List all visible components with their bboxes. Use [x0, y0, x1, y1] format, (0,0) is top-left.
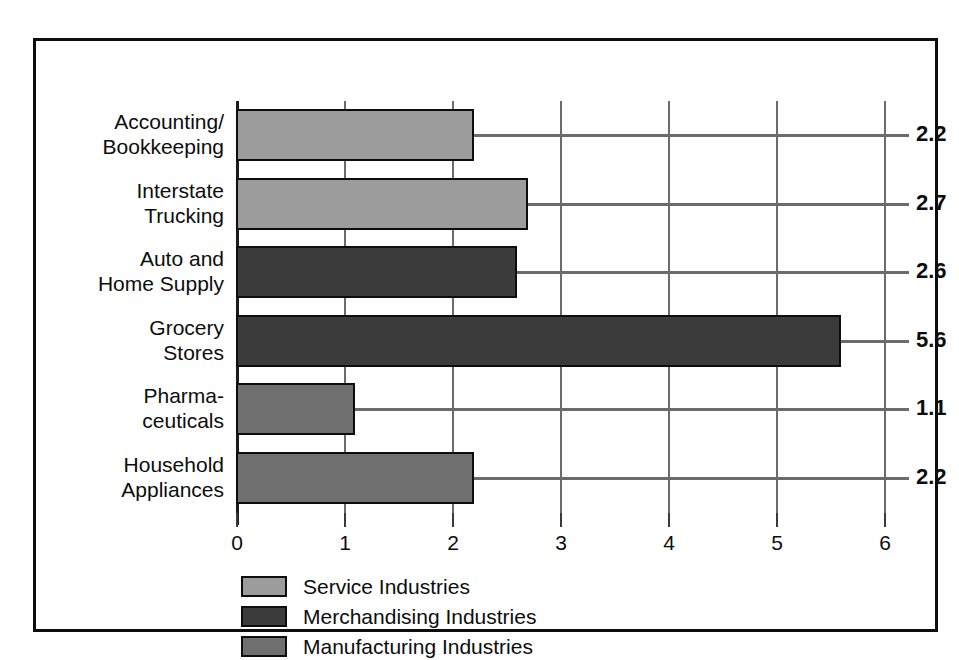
gridline-5: [776, 101, 778, 513]
bar: [236, 452, 474, 504]
tick-label-4: 4: [649, 531, 689, 555]
chart-frame: Accounting/BookkeepingInterstateTrucking…: [33, 38, 938, 632]
tick-mark-5: [776, 513, 778, 527]
legend-label: Manufacturing Industries: [303, 635, 533, 659]
value-leader-line: [528, 203, 909, 206]
category-label: Pharma-ceuticals: [44, 383, 224, 433]
gridline-6: [884, 101, 886, 513]
bar: [236, 246, 517, 298]
category-label-line: Bookkeeping: [44, 134, 224, 159]
bar-value-label: 5.6: [916, 328, 959, 352]
gridline-4: [668, 101, 670, 513]
legend-swatch-icon: [241, 636, 287, 657]
category-axis-labels: Accounting/BookkeepingInterstateTrucking…: [36, 41, 224, 635]
gridline-3: [560, 101, 562, 513]
tick-mark-3: [560, 513, 562, 527]
category-label-line: Trucking: [44, 203, 224, 228]
bar: [236, 383, 355, 435]
category-label: GroceryStores: [44, 315, 224, 365]
legend-swatch-icon: [241, 606, 287, 627]
tick-mark-2: [452, 513, 454, 527]
category-label-line: Accounting/: [44, 109, 224, 134]
tick-mark-0: [236, 513, 238, 527]
tick-label-2: 2: [433, 531, 473, 555]
bar-value-label: 2.7: [916, 191, 959, 215]
bar-value-label: 2.6: [916, 259, 959, 283]
legend: Service IndustriesMerchandising Industri…: [241, 573, 536, 660]
bar-value-label: 2.2: [916, 465, 959, 489]
category-label-line: Grocery: [44, 315, 224, 340]
category-label: HouseholdAppliances: [44, 452, 224, 502]
legend-item: Merchandising Industries: [241, 603, 536, 630]
category-label-line: Household: [44, 452, 224, 477]
bar: [236, 178, 528, 230]
tick-mark-1: [344, 513, 346, 527]
bar-value-label: 1.1: [916, 396, 959, 420]
value-leader-line: [517, 271, 909, 274]
tick-label-3: 3: [541, 531, 581, 555]
category-label-line: ceuticals: [44, 408, 224, 433]
value-leader-line: [474, 477, 909, 480]
tick-mark-4: [668, 513, 670, 527]
tick-label-1: 1: [325, 531, 365, 555]
category-label-line: Interstate: [44, 178, 224, 203]
bar: [236, 109, 474, 161]
tick-mark-6: [884, 513, 886, 527]
legend-label: Merchandising Industries: [303, 605, 536, 629]
category-label-line: Appliances: [44, 477, 224, 502]
legend-item: Service Industries: [241, 573, 536, 600]
value-leader-line: [355, 408, 909, 411]
tick-label-5: 5: [757, 531, 797, 555]
bar-chart-figure: Accounting/BookkeepingInterstateTrucking…: [0, 0, 959, 660]
legend-item: Manufacturing Industries: [241, 633, 536, 660]
tick-label-6: 6: [865, 531, 905, 555]
category-label: Accounting/Bookkeeping: [44, 109, 224, 159]
category-label-line: Pharma-: [44, 383, 224, 408]
category-label-line: Stores: [44, 340, 224, 365]
category-label-line: Auto and: [44, 246, 224, 271]
category-label: InterstateTrucking: [44, 178, 224, 228]
tick-label-0: 0: [217, 531, 257, 555]
category-label-line: Home Supply: [44, 271, 224, 296]
legend-label: Service Industries: [303, 575, 470, 599]
legend-swatch-icon: [241, 576, 287, 597]
bar-value-label: 2.2: [916, 122, 959, 146]
bar: [236, 315, 841, 367]
category-label: Auto andHome Supply: [44, 246, 224, 296]
value-leader-line: [841, 340, 909, 343]
value-leader-line: [474, 134, 909, 137]
